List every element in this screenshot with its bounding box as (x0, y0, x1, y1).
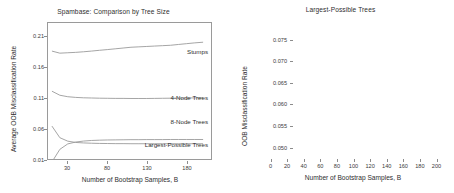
right-xtick-mark-6 (370, 159, 371, 162)
right-xtick-mark-5 (354, 159, 355, 162)
left-xtick-mark-1 (107, 161, 108, 164)
series-label-four-node: 4-Node Trees (120, 94, 208, 101)
left-ytick-4: 0.21 (26, 33, 44, 39)
right-ytick-3: 0.065 (261, 80, 287, 86)
left-xtick-mark-3 (187, 161, 188, 164)
right-xtick-9: 180 (415, 163, 424, 169)
right-ytick-4: 0.070 (261, 58, 287, 64)
left-ytick-2: 0.11 (26, 95, 44, 101)
left-xtick-2: 130 (142, 165, 151, 171)
right-ytick-0: 0.050 (261, 145, 287, 151)
left-ytick-mark-0 (44, 160, 47, 161)
right-xtick-6: 120 (365, 163, 374, 169)
left-xtick-0: 30 (64, 165, 70, 171)
right-ytick-mark-3 (290, 83, 293, 84)
right-ytick-1: 0.055 (261, 123, 287, 129)
right-ytick-mark-2 (290, 104, 293, 105)
right-ytick-5: 0.075 (261, 37, 287, 43)
left-ytick-0: 0.01 (26, 157, 44, 163)
left-chart-panel: Spambase: Comparison by Tree Size Averag… (0, 0, 227, 193)
right-xtick-mark-10 (437, 159, 438, 162)
right-xtick-mark-4 (337, 159, 338, 162)
right-xtick-mark-0 (271, 159, 272, 162)
right-xtick-mark-3 (320, 159, 321, 162)
left-xtick-mark-2 (147, 161, 148, 164)
left-xtick-3: 180 (182, 165, 191, 171)
right-xtick-5: 100 (349, 163, 358, 169)
left-ytick-3: 0.16 (26, 64, 44, 70)
right-y-axis-title: OOB Misclassification Rate (241, 66, 248, 146)
right-xtick-8: 160 (399, 163, 408, 169)
right-chart-title: Largest-Possible Trees (227, 6, 454, 13)
series-label-largest-possible: Largest-Possible Trees (104, 141, 208, 148)
left-y-axis-title: Average OOB Misclassification Rate (10, 46, 17, 152)
right-ytick-mark-0 (290, 148, 293, 149)
left-line-series-svg (48, 23, 211, 159)
left-chart-title: Spambase: Comparison by Tree Size (0, 8, 227, 15)
right-chart-panel: Largest-Possible Trees OOB Misclassifica… (227, 0, 454, 193)
right-ytick-mark-5 (290, 40, 293, 41)
series-label-eight-node: 8-Node Trees (120, 118, 208, 125)
right-xtick-0: 0 (269, 163, 272, 169)
right-xtick-mark-7 (387, 159, 388, 162)
right-xtick-1: 20 (284, 163, 290, 169)
right-xtick-mark-8 (403, 159, 404, 162)
right-xtick-3: 60 (317, 163, 323, 169)
right-xtick-10: 200 (432, 163, 441, 169)
right-xtick-4: 80 (334, 163, 340, 169)
series-label-stumps: Stumps (120, 48, 208, 55)
right-ytick-mark-1 (290, 126, 293, 127)
right-x-axis-title: Number of Bootstrap Samples, B (305, 174, 401, 181)
right-ytick-mark-4 (290, 61, 293, 62)
figure-container: Spambase: Comparison by Tree Size Averag… (0, 0, 454, 193)
left-x-axis-title: Number of Bootstrap Samples, B (82, 176, 178, 183)
right-ytick-2: 0.060 (261, 101, 287, 107)
left-ytick-1: 0.06 (26, 126, 44, 132)
left-plot-area (47, 22, 212, 160)
left-xtick-mark-0 (67, 161, 68, 164)
right-xtick-mark-9 (420, 159, 421, 162)
right-xtick-mark-1 (287, 159, 288, 162)
left-xtick-1: 80 (104, 165, 110, 171)
right-xtick-mark-2 (304, 159, 305, 162)
right-xtick-2: 40 (301, 163, 307, 169)
right-xtick-7: 140 (382, 163, 391, 169)
